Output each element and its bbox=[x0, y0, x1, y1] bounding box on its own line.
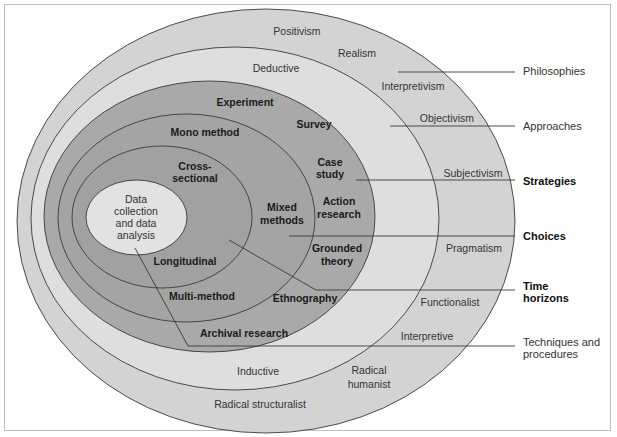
philosophies-layer-label: Philosophies bbox=[523, 65, 586, 77]
objectivism-label: Objectivism bbox=[420, 112, 475, 124]
positivism-label: Positivism bbox=[273, 25, 321, 37]
mono-method-label: Mono method bbox=[171, 126, 240, 138]
techniques-layer-label-1: Techniques and bbox=[523, 336, 600, 348]
core-label-1: Data bbox=[125, 193, 147, 205]
grounded-theory-label-1: Grounded bbox=[312, 242, 362, 254]
survey-label: Survey bbox=[296, 118, 331, 130]
choices-layer-label: Choices bbox=[523, 230, 566, 242]
research-onion-diagram: Positivism Realism Interpretivism Object… bbox=[0, 0, 617, 437]
mixed-methods-label-1: Mixed bbox=[267, 201, 297, 213]
longitudinal-label: Longitudinal bbox=[154, 255, 217, 267]
core-label-3: and data bbox=[116, 217, 157, 229]
pragmatism-label: Pragmatism bbox=[446, 242, 502, 254]
core-label-2: collection bbox=[114, 205, 158, 217]
radical-structuralist-label: Radical structuralist bbox=[214, 398, 306, 410]
multi-method-label: Multi-method bbox=[169, 290, 235, 302]
interpretivism-label: Interpretivism bbox=[381, 80, 444, 92]
ethnography-label: Ethnography bbox=[273, 292, 338, 304]
action-research-label-1: Action bbox=[323, 195, 356, 207]
experiment-label: Experiment bbox=[216, 96, 274, 108]
time-horizons-layer-label-2: horizons bbox=[523, 292, 569, 304]
time-horizons-layer-label-1: Time bbox=[523, 280, 548, 292]
core-label-4: analysis bbox=[117, 229, 155, 241]
techniques-layer-label-2: procedures bbox=[523, 348, 579, 360]
grounded-theory-label-2: theory bbox=[321, 255, 353, 267]
archival-research-label: Archival research bbox=[200, 327, 288, 339]
interpretive-label: Interpretive bbox=[401, 330, 454, 342]
inductive-label: Inductive bbox=[237, 365, 279, 377]
action-research-label-2: research bbox=[317, 208, 361, 220]
approaches-layer-label: Approaches bbox=[523, 120, 582, 132]
cross-sectional-label-1: Cross- bbox=[178, 160, 212, 172]
case-study-label-1: Case bbox=[317, 156, 342, 168]
functionalist-label: Functionalist bbox=[421, 296, 480, 308]
subjectivism-label: Subjectivism bbox=[444, 167, 503, 179]
cross-sectional-label-2: sectional bbox=[172, 172, 218, 184]
radical-humanist-label-1: Radical bbox=[351, 364, 386, 376]
realism-label: Realism bbox=[338, 47, 376, 59]
case-study-label-2: study bbox=[316, 168, 344, 180]
radical-humanist-label-2: humanist bbox=[348, 378, 391, 390]
deductive-label: Deductive bbox=[253, 62, 300, 74]
strategies-layer-label: Strategies bbox=[523, 175, 576, 187]
mixed-methods-label-2: methods bbox=[260, 214, 304, 226]
